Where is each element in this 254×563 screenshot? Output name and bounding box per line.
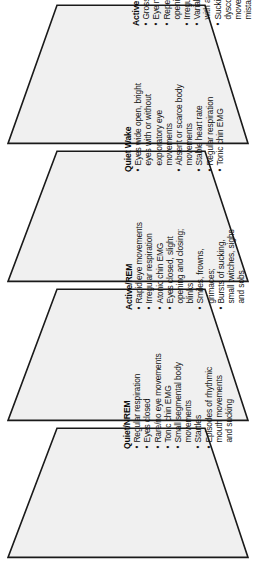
state-block-quiet-nrem: Quiet/NREM•Regular respiration•Eyes clos…	[0, 427, 254, 559]
state-block-active-wake: Active Wake•Gross body movements•Eye mov…	[0, 4, 254, 145]
sleep-state-diagram: Active Wake•Gross body movements•Eye mov…	[0, 0, 254, 563]
state-block-active-rem: Active/REM•Rapid eye movements•Irregular…	[0, 288, 254, 422]
trapezoid-shape-active-rem	[0, 288, 254, 422]
trapezoid-shape-quiet-nrem	[0, 427, 254, 559]
trapezoid-shape-quiet-wake	[0, 150, 254, 283]
state-block-quiet-wake: Quiet Wake•Eyes wide open, brighteyes wi…	[0, 150, 254, 283]
trapezoid-shape-active-wake	[0, 4, 254, 145]
